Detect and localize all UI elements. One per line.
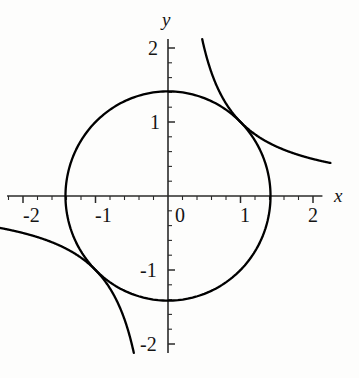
y-tick-label-neg1: -1 [140,260,157,280]
x-tick-label-pos2: 2 [308,205,318,225]
curve-hyperbola-branch-1 [202,39,330,163]
plot-figure: -2 -1 0 1 2 2 1 -1 -2 x y [0,0,359,378]
x-tick-label-zero: 0 [175,205,185,225]
curve-hyperbola-branch-3 [0,228,134,353]
x-tick-label-neg1: -1 [95,205,112,225]
plot-canvas [0,0,359,378]
y-axis-label: y [162,10,170,29]
y-tick-label-pos1: 1 [150,112,160,132]
x-tick-label-pos1: 1 [240,205,250,225]
y-tick-label-neg2: -2 [140,334,157,354]
y-tick-label-pos2: 2 [148,38,158,58]
x-tick-label-neg2: -2 [23,205,40,225]
x-axis-label: x [334,186,342,205]
axes-group [7,39,322,353]
